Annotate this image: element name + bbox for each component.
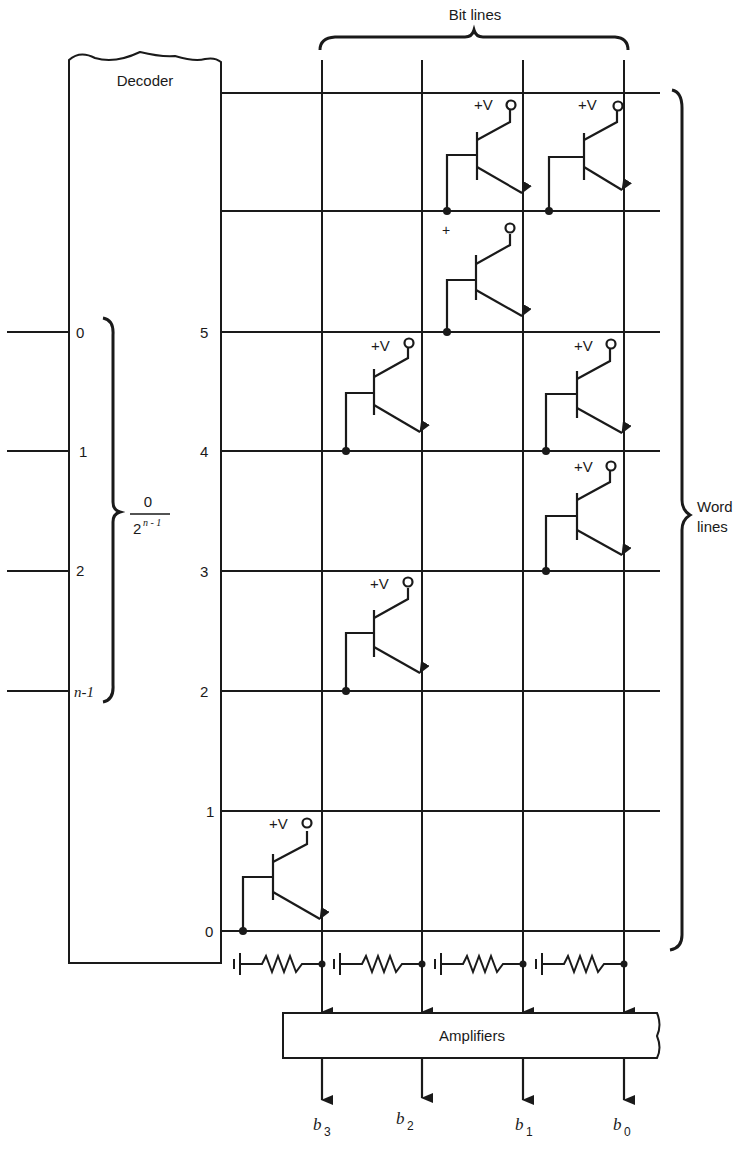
transistor-cell [243, 819, 320, 932]
brace-denominator-exp: n - 1 [143, 517, 161, 528]
word-line-label-3: 3 [200, 563, 208, 580]
transistor-cell [546, 340, 622, 452]
supply-label: + [442, 222, 450, 238]
bit-lines [322, 60, 624, 1012]
transistor-cell [549, 102, 623, 212]
word-lines-label-2: lines [697, 518, 728, 535]
decoder-label: Decoder [117, 72, 174, 89]
supply-label: +V [574, 458, 593, 475]
transistor-cell [447, 224, 522, 333]
input-label-n-1: n-1 [74, 684, 94, 700]
junction-dots [239, 207, 628, 968]
amplifiers-block: Amplifiers [283, 1013, 660, 1058]
brace-numerator: 0 [144, 493, 152, 510]
svg-text:b: b [613, 1115, 622, 1134]
load-resistors [234, 953, 624, 975]
svg-text:b: b [396, 1109, 405, 1128]
word-lines [221, 93, 660, 931]
transistor-cell [346, 578, 420, 692]
output-b2: b2 [396, 1109, 414, 1133]
word-lines-brace [670, 90, 690, 950]
word-line-label-0: 0 [205, 923, 213, 940]
supply-label: +V [370, 575, 389, 592]
output-b0: b0 [613, 1115, 631, 1139]
word-line-label-4: 4 [200, 443, 208, 460]
transistor-cell [447, 101, 522, 212]
bit-lines-label: Bit lines [449, 6, 502, 23]
output-arrows [322, 1058, 624, 1100]
transistor-cell [546, 462, 622, 572]
input-label-2: 2 [76, 562, 84, 579]
output-b1: b1 [515, 1115, 533, 1139]
bit-lines-brace [320, 30, 628, 50]
word-lines-label-1: Word [697, 498, 733, 515]
supply-label: +V [474, 96, 493, 113]
amplifiers-label: Amplifiers [439, 1027, 505, 1044]
input-label-0: 0 [76, 324, 84, 341]
brace-denominator-base: 2 [133, 520, 141, 537]
word-line-label-1: 1 [206, 803, 214, 820]
transistor-cell [346, 339, 420, 452]
word-line-label-5: 5 [200, 324, 208, 341]
output-b3: b3 [313, 1115, 331, 1139]
supply-label: +V [574, 337, 593, 354]
svg-text:b: b [515, 1115, 524, 1134]
input-label-1: 1 [79, 443, 87, 460]
svg-text:0: 0 [624, 1125, 631, 1139]
svg-text:2: 2 [407, 1119, 414, 1133]
word-line-label-2: 2 [200, 683, 208, 700]
supply-label: +V [371, 337, 390, 354]
memory-array-diagram: Decoder 0 1 2 n-1 0 2 n - 1 Bit lines Wo… [0, 0, 740, 1150]
supply-label: +V [269, 815, 288, 832]
svg-text:3: 3 [324, 1125, 331, 1139]
decoder-inputs [7, 332, 69, 691]
svg-text:1: 1 [526, 1125, 533, 1139]
supply-label: +V [578, 96, 597, 113]
svg-text:b: b [313, 1115, 322, 1134]
input-brace [103, 318, 120, 702]
